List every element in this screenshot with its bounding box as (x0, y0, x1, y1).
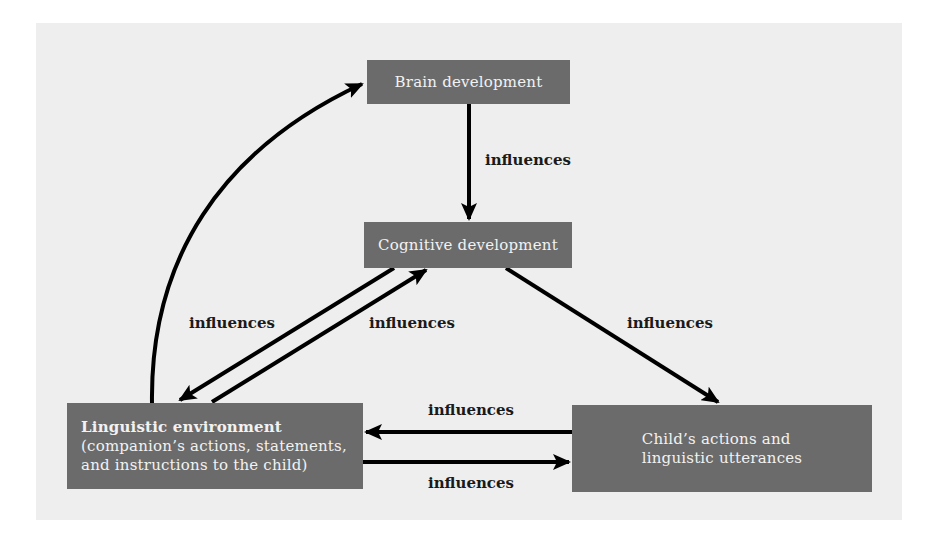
edge-label-child-to-linguistic: influences (428, 401, 514, 419)
diagram-stage: Brain development Cognitive development … (0, 0, 938, 533)
edge-label-linguistic-to-cognitive: influences (369, 314, 455, 332)
node-cognitive-development: Cognitive development (364, 222, 572, 268)
node-child-line2: linguistic utterances (642, 449, 803, 468)
edge-label-linguistic-to-child: influences (428, 474, 514, 492)
node-linguistic-line3: and instructions to the child) (81, 456, 308, 475)
edge-label-brain-to-cognitive: influences (485, 151, 571, 169)
node-brain-label: Brain development (395, 73, 543, 92)
node-cognitive-label: Cognitive development (378, 236, 558, 255)
node-linguistic-environment: Linguistic environment (companion’s acti… (67, 403, 363, 489)
edge-label-cognitive-to-child: influences (627, 314, 713, 332)
node-brain-development: Brain development (367, 60, 570, 104)
node-linguistic-line2: (companion’s actions, statements, (81, 437, 347, 456)
node-child-actions: Child’s actions and linguistic utterance… (572, 405, 872, 492)
edge-label-cognitive-to-linguistic: influences (189, 314, 275, 332)
node-linguistic-title: Linguistic environment (81, 418, 282, 437)
node-child-line1: Child’s actions and (642, 430, 803, 449)
